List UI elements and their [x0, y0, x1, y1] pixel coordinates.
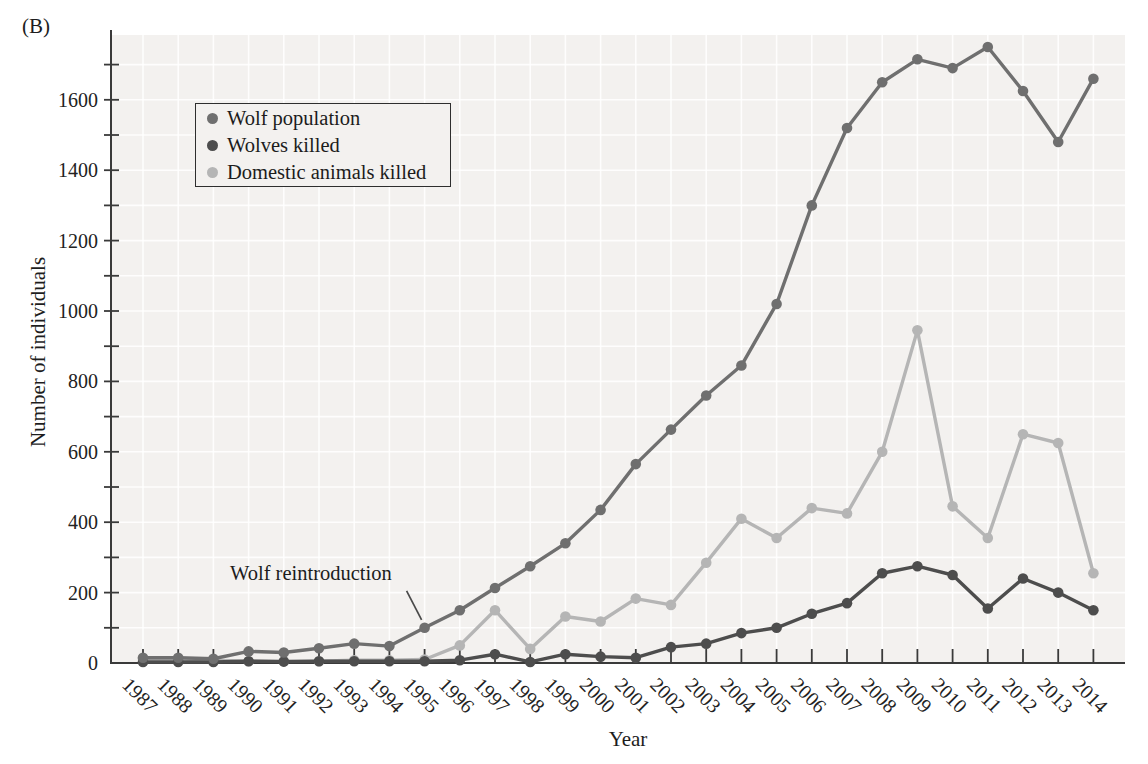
legend-row-wolves-killed: Wolves killed	[207, 133, 450, 158]
domestic-animals-killed-marker-icon	[207, 167, 218, 178]
legend-label-wolf-population: Wolf population	[227, 107, 360, 130]
svg-text:2006: 2006	[787, 673, 831, 717]
x-axis-title: Year	[609, 727, 648, 752]
svg-text:1995: 1995	[400, 673, 444, 717]
svg-text:1993: 1993	[329, 673, 373, 717]
svg-text:1989: 1989	[189, 673, 233, 717]
panel-label: (B)	[22, 14, 50, 39]
svg-text:800: 800	[68, 370, 98, 392]
svg-text:1991: 1991	[259, 673, 303, 717]
wolf-population-figure: 0200400600800100012001400160019871988198…	[0, 0, 1148, 764]
svg-text:2012: 2012	[998, 673, 1042, 717]
wolf-population-marker-icon	[207, 113, 218, 124]
svg-text:2005: 2005	[752, 673, 796, 717]
svg-text:600: 600	[68, 441, 98, 463]
wolves-killed-marker-icon	[207, 140, 218, 151]
legend-row-domestic-animals-killed: Domestic animals killed	[207, 160, 450, 185]
svg-text:2004: 2004	[717, 673, 761, 717]
svg-text:1000: 1000	[58, 300, 98, 322]
svg-text:1999: 1999	[541, 673, 585, 717]
svg-text:2000: 2000	[576, 673, 620, 717]
svg-text:1400: 1400	[58, 159, 98, 181]
svg-text:400: 400	[68, 511, 98, 533]
y-tick-labels: 02004006008001000120014001600	[58, 89, 98, 674]
svg-text:2007: 2007	[822, 673, 866, 717]
x-tick-labels: 1987198819891990199119921993199419951996…	[118, 673, 1112, 717]
y-axis-title: Number of individuals	[26, 257, 51, 447]
svg-text:2009: 2009	[893, 673, 937, 717]
legend-row-wolf-population: Wolf population	[207, 106, 450, 131]
svg-text:2011: 2011	[963, 673, 1006, 716]
svg-text:1998: 1998	[505, 673, 549, 717]
svg-text:1994: 1994	[365, 673, 409, 717]
svg-text:1997: 1997	[470, 673, 514, 717]
svg-text:1988: 1988	[153, 673, 197, 717]
svg-text:2008: 2008	[857, 673, 901, 717]
svg-text:2001: 2001	[611, 673, 655, 717]
svg-text:1990: 1990	[224, 673, 268, 717]
svg-text:1600: 1600	[58, 89, 98, 111]
svg-text:2014: 2014	[1069, 673, 1113, 717]
svg-text:2010: 2010	[928, 673, 972, 717]
svg-text:1992: 1992	[294, 673, 338, 717]
svg-text:1200: 1200	[58, 230, 98, 252]
svg-text:1996: 1996	[435, 673, 479, 717]
svg-text:0: 0	[88, 652, 98, 674]
chart-legend: Wolf population Wolves killed Domestic a…	[195, 103, 451, 187]
wolf-reintroduction-annotation: Wolf reintroduction	[230, 562, 392, 585]
svg-text:1987: 1987	[118, 673, 162, 717]
svg-text:2003: 2003	[681, 673, 725, 717]
svg-text:2013: 2013	[1033, 673, 1077, 717]
svg-text:200: 200	[68, 582, 98, 604]
legend-label-wolves-killed: Wolves killed	[227, 134, 340, 157]
svg-text:2002: 2002	[646, 673, 690, 717]
line-chart: 0200400600800100012001400160019871988198…	[0, 0, 1148, 764]
legend-label-domestic-animals-killed: Domestic animals killed	[227, 161, 426, 184]
